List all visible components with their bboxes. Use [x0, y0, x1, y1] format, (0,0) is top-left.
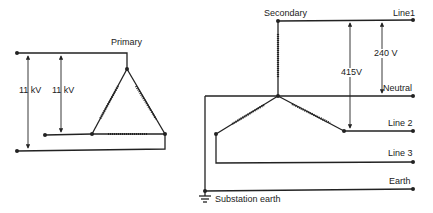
- secondary-label: Secondary: [264, 9, 307, 18]
- substation-earth-label: Substation earth: [215, 195, 281, 204]
- outer-voltage-label: 11 kV: [19, 86, 41, 95]
- line3-label: Line 3: [388, 149, 413, 158]
- transformer-diagram: [0, 0, 433, 213]
- earth-label: Earth: [389, 177, 411, 186]
- inner-voltage-label: 11 kV: [52, 86, 74, 95]
- terminal-dots: [15, 18, 415, 193]
- line-line-voltage-label: 415V: [341, 68, 362, 77]
- line2-label: Line 2: [388, 119, 413, 128]
- line-neutral-voltage-label: 240 V: [374, 49, 398, 58]
- primary-label: Primary: [111, 38, 142, 47]
- line1-label: Line1: [393, 9, 415, 18]
- neutral-label: Neutral: [383, 84, 412, 93]
- primary-delta: [17, 53, 165, 151]
